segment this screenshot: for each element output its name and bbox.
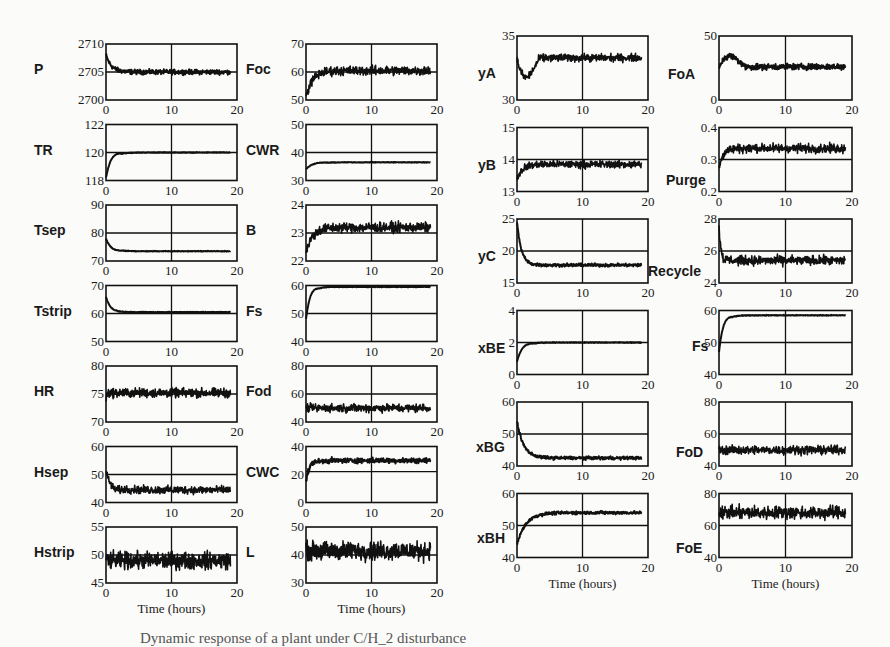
x-axis-label: Time (hours) [338, 601, 406, 616]
x-tick-label: 10 [365, 585, 378, 600]
panel-label: Tsep [34, 222, 66, 238]
y-tick-label: 55 [91, 519, 104, 534]
panel-xbh: 40506001020Time (hours)xBH [477, 486, 655, 591]
x-tick-label: 0 [103, 424, 110, 439]
x-tick-label: 20 [642, 468, 655, 483]
x-tick-label: 10 [365, 102, 378, 117]
y-tick-label: 50 [291, 306, 304, 321]
series-line [106, 239, 230, 252]
x-tick-label: 20 [846, 285, 859, 300]
x-tick-label: 20 [231, 505, 244, 520]
panel-label: L [246, 544, 255, 560]
x-tick-label: 10 [365, 183, 378, 198]
x-tick-label: 20 [642, 102, 655, 117]
y-tick-label: 0.3 [701, 152, 717, 167]
x-tick-label: 10 [779, 102, 792, 117]
series-line [306, 162, 430, 169]
x-tick-label: 20 [431, 263, 444, 278]
y-tick-label: 60 [704, 518, 717, 533]
panel-tsep: 70809001020Tsep [34, 197, 244, 278]
x-tick-label: 20 [431, 505, 444, 520]
x-tick-label: 0 [303, 102, 310, 117]
x-axis-label: Time (hours) [752, 576, 820, 591]
y-tick-label: 26 [704, 243, 718, 258]
x-tick-label: 0 [303, 424, 310, 439]
panel-fs-left: 40506001020Fs [246, 278, 444, 359]
panel-tstrip: 50607001020Tstrip [34, 278, 244, 359]
series-line [719, 504, 845, 521]
x-tick-label: 10 [165, 183, 178, 198]
series-line [719, 445, 845, 456]
x-tick-label: 20 [431, 585, 444, 600]
y-tick-label: 60 [91, 306, 104, 321]
y-tick-label: 60 [291, 278, 304, 293]
x-tick-label: 0 [103, 505, 110, 520]
x-tick-label: 10 [576, 468, 589, 483]
panel-label: FoD [676, 444, 703, 460]
x-tick-label: 10 [365, 424, 378, 439]
y-tick-label: 50 [291, 519, 304, 534]
x-tick-label: 20 [846, 377, 859, 392]
x-tick-label: 10 [779, 560, 792, 575]
series-line [306, 540, 430, 563]
panel-yb: 13141501020yB [478, 120, 655, 209]
x-tick-label: 0 [514, 377, 521, 392]
x-tick-label: 0 [103, 344, 110, 359]
panel-foe: 40608001020Time (hours)FoE [676, 486, 859, 591]
y-tick-label: 118 [85, 173, 104, 188]
x-tick-label: 20 [642, 560, 655, 575]
panel-hsep: 40506001020Hsep [34, 439, 244, 520]
x-tick-label: 20 [431, 183, 444, 198]
panel-label: Tstrip [34, 303, 72, 319]
y-tick-label: 80 [91, 358, 104, 373]
x-tick-label: 10 [365, 344, 378, 359]
x-tick-label: 0 [716, 285, 723, 300]
panel-label: TR [34, 142, 53, 158]
y-tick-label: 40 [291, 547, 304, 562]
y-tick-label: 4 [509, 303, 516, 318]
y-tick-label: 50 [704, 28, 717, 43]
x-tick-label: 10 [165, 505, 178, 520]
panel-label: CWC [246, 464, 279, 480]
series-line [106, 297, 230, 313]
y-tick-label: 40 [291, 439, 304, 454]
x-tick-label: 10 [165, 263, 178, 278]
series-line [719, 54, 845, 71]
x-tick-label: 0 [514, 468, 521, 483]
x-tick-label: 0 [716, 468, 723, 483]
panel-fod: 40608001020Fod [246, 358, 444, 439]
panel-label: yB [478, 157, 496, 173]
panel-label: CWR [246, 142, 279, 158]
panel-foc: 50607001020Foc [246, 36, 444, 117]
panel-xbg: 40506001020xBG [476, 394, 655, 483]
x-tick-label: 20 [231, 263, 244, 278]
panel-label: xBE [478, 340, 505, 356]
y-tick-label: 70 [91, 278, 104, 293]
x-tick-label: 0 [303, 585, 310, 600]
panel-cwr: 30405001020CWR [246, 117, 444, 198]
x-tick-label: 10 [165, 344, 178, 359]
panel-b: 22232401020B [246, 197, 444, 278]
series-line [517, 422, 642, 461]
x-tick-label: 20 [642, 285, 655, 300]
x-tick-label: 0 [514, 560, 521, 575]
panel-cwc: 0204001020CWC [246, 439, 444, 520]
series-line [517, 222, 642, 267]
x-tick-label: 0 [303, 505, 310, 520]
y-tick-label: 60 [91, 439, 104, 454]
x-tick-label: 0 [514, 285, 521, 300]
y-tick-label: 50 [91, 547, 104, 562]
x-tick-label: 0 [716, 560, 723, 575]
x-tick-label: 20 [642, 377, 655, 392]
panel-purge: 0.20.30.401020Purge [666, 120, 859, 209]
y-tick-label: 122 [85, 117, 105, 132]
panel-l: 30405001020Time (hours)L [246, 519, 444, 616]
figure-caption: Dynamic response of a plant under C/H_2 … [140, 630, 466, 647]
series-line [517, 53, 642, 79]
x-tick-label: 10 [576, 560, 589, 575]
y-tick-label: 60 [291, 64, 304, 79]
panel-label: Fod [246, 383, 272, 399]
y-tick-label: 40 [291, 145, 304, 160]
panel-yc: 15202501020yC [478, 211, 655, 300]
